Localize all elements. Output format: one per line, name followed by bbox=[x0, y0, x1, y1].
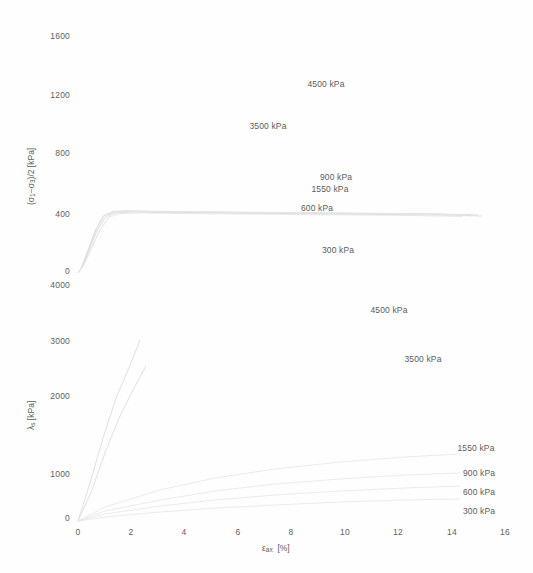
curve-group-lower bbox=[0, 278, 533, 538]
y-axis-title-lower-unit: [kPa] bbox=[26, 401, 36, 420]
x-tick-12: 12 bbox=[393, 527, 403, 537]
y-tick-upper-1200: 1200 bbox=[20, 90, 70, 100]
annotation-upper-600: 600 kPa bbox=[301, 203, 333, 213]
x-tick-14: 14 bbox=[447, 527, 457, 537]
annotation-lower-3500: 3500 kPa bbox=[404, 354, 441, 364]
chart-panel-lower: 4000 3000 2000 1000 0 λs [kPa] 4500 kPa … bbox=[0, 278, 533, 538]
y-tick-lower-0: 0 bbox=[20, 513, 70, 523]
y-tick-upper-1600: 1600 bbox=[20, 31, 70, 41]
annotation-upper-300: 300 kPa bbox=[322, 245, 354, 255]
x-tick-2: 2 bbox=[129, 527, 134, 537]
figure-root: 1600 1200 800 400 0 (σ1−σ3)/2 [kPa] 4500… bbox=[0, 0, 533, 573]
x-tick-16: 16 bbox=[500, 527, 510, 537]
annotation-upper-900: 900 kPa bbox=[320, 172, 352, 182]
x-tick-8: 8 bbox=[289, 527, 294, 537]
x-axis-title-unit: [%] bbox=[277, 543, 289, 553]
y-axis-title-lower: λs [kPa] bbox=[26, 401, 36, 430]
annotation-upper-1550: 1550 kPa bbox=[311, 184, 348, 194]
y-axis-title-lower-lambda: λ bbox=[26, 426, 36, 430]
y-tick-lower-1000: 1000 bbox=[20, 469, 70, 479]
annotation-upper-3500: 3500 kPa bbox=[249, 121, 286, 131]
annotation-upper-4500: 4500 kPa bbox=[307, 79, 344, 89]
curve-group-upper bbox=[0, 0, 533, 285]
chart-panel-upper: 1600 1200 800 400 0 (σ1−σ3)/2 [kPa] 4500… bbox=[0, 0, 533, 285]
y-axis-title-upper-sigma3: σ bbox=[26, 183, 36, 188]
annotation-lower-900: 900 kPa bbox=[463, 468, 495, 478]
y-tick-upper-0: 0 bbox=[20, 266, 70, 276]
y-axis-title-upper-minus: − bbox=[26, 188, 36, 193]
y-axis-title-upper-paren-open: ( bbox=[26, 202, 36, 205]
y-tick-lower-2000: 2000 bbox=[20, 391, 70, 401]
y-axis-title-upper-unit: [kPa] bbox=[26, 148, 36, 167]
y-tick-lower-4000: 4000 bbox=[20, 280, 70, 290]
annotation-lower-4500: 4500 kPa bbox=[370, 305, 407, 315]
x-axis-title-sub: ax bbox=[266, 546, 273, 553]
y-axis-title-upper-sub3: 3 bbox=[29, 179, 36, 183]
x-axis-title: εax [%] bbox=[262, 543, 290, 553]
annotation-lower-600: 600 kPa bbox=[463, 487, 495, 497]
annotation-lower-1550: 1550 kPa bbox=[457, 443, 494, 453]
y-axis-title-upper-close: )/2 bbox=[26, 170, 36, 180]
y-tick-lower-3000: 3000 bbox=[20, 336, 70, 346]
y-axis-title-upper-sigma1: σ bbox=[26, 197, 36, 202]
y-axis-title-upper: (σ1−σ3)/2 [kPa] bbox=[26, 148, 36, 205]
y-axis-title-upper-sub1: 1 bbox=[29, 193, 36, 197]
y-axis-title-lower-sub: s bbox=[29, 423, 36, 426]
x-tick-10: 10 bbox=[340, 527, 350, 537]
annotation-lower-300: 300 kPa bbox=[463, 506, 495, 516]
y-tick-upper-400: 400 bbox=[20, 209, 70, 219]
x-tick-0: 0 bbox=[76, 527, 81, 537]
x-tick-4: 4 bbox=[182, 527, 187, 537]
x-tick-6: 6 bbox=[236, 527, 241, 537]
